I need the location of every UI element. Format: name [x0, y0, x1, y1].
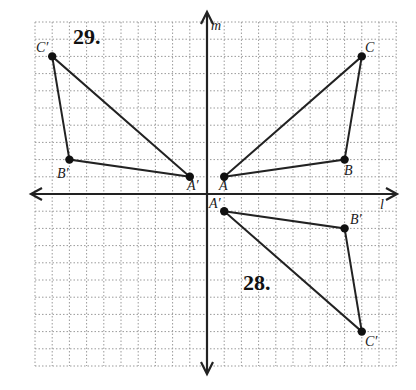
- label-b-prime-29: B′: [57, 166, 70, 181]
- axes: [31, 12, 397, 374]
- vertex-dot: [340, 224, 348, 232]
- label-axis-l: l: [380, 197, 384, 212]
- problem-number-29: 29.: [73, 24, 101, 49]
- vertex-dot: [65, 155, 73, 163]
- label-c: C: [365, 40, 375, 55]
- label-a-prime-28: A′: [208, 196, 222, 211]
- label-a-prime-29: A′: [186, 178, 200, 193]
- problem-number-28: 28.: [243, 270, 271, 295]
- label-a: A: [218, 178, 228, 193]
- label-c-prime-28: C′: [365, 334, 378, 349]
- label-b-prime-28: B′: [350, 212, 363, 227]
- vertex-dot: [220, 207, 228, 215]
- label-b: B: [344, 163, 353, 178]
- reflection-diagram: m l A B C A′ B′ C′ A′ B′ C′ 29. 28.: [0, 0, 416, 390]
- vertex-dot: [48, 52, 56, 60]
- label-axis-m: m: [211, 18, 221, 33]
- label-c-prime-29: C′: [36, 40, 49, 55]
